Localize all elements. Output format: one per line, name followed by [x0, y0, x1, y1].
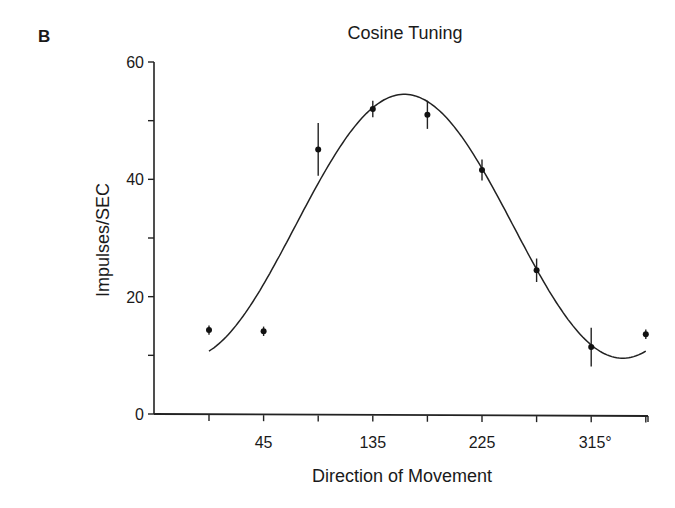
data-point	[261, 328, 267, 334]
x-tick-label: 45	[255, 434, 273, 451]
cosine-fit-curve	[209, 94, 646, 358]
chart-title: Cosine Tuning	[347, 23, 462, 43]
cosine-tuning-chart: B Cosine Tuning 020406045135225315° Impu…	[0, 0, 675, 508]
data-point	[206, 327, 212, 333]
data-point	[534, 267, 540, 273]
x-axis-line	[154, 414, 648, 416]
x-tick-label: 135	[359, 434, 386, 451]
y-tick-label: 20	[126, 289, 144, 306]
data-point	[315, 146, 321, 152]
data-point	[479, 167, 485, 173]
panel-label: B	[38, 27, 50, 46]
y-tick-label: 60	[126, 54, 144, 71]
y-tick-label: 0	[135, 406, 144, 423]
x-axis-label: Direction of Movement	[312, 466, 492, 486]
data-point	[643, 331, 649, 337]
axes: 020406045135225315°	[126, 54, 648, 451]
x-tick-label: 315°	[579, 434, 612, 451]
chart-svg: B Cosine Tuning 020406045135225315° Impu…	[0, 0, 675, 508]
data-points	[206, 101, 649, 367]
data-point	[370, 106, 376, 112]
x-tick-label: 225	[469, 434, 496, 451]
fit-line	[209, 94, 646, 358]
y-tick-label: 40	[126, 171, 144, 188]
data-point	[588, 344, 594, 350]
data-point	[424, 112, 430, 118]
y-axis-label: Impulses/SEC	[93, 183, 113, 297]
